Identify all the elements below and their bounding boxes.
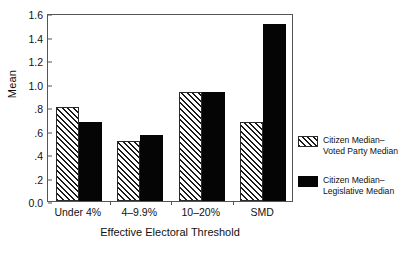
legend-item: Citizen Median– Voted Party Median [298,135,410,157]
bar [263,24,286,201]
y-tick-label: 1.4 [28,33,43,45]
x-tick-mark [110,201,111,205]
bar [179,92,202,201]
plot-area: 0.0.2.4.6.81.01.21.41.6 [47,14,293,202]
x-tick-mark [233,201,234,205]
bar [79,122,102,201]
x-axis-title: Effective Electoral Threshold [47,226,293,238]
x-tick-label: 10–20% [181,206,220,218]
x-tick-label: SMD [251,206,274,218]
y-tick-label: .6 [34,127,43,139]
y-tick-label: 1.0 [28,80,43,92]
y-tick-label: .8 [34,103,43,115]
bar [202,92,225,201]
bar [56,107,79,201]
bar-chart-figure: Mean 0.0.2.4.6.81.01.21.41.6 Under 4%4–9… [0,0,413,254]
chart-legend: Citizen Median– Voted Party MedianCitize… [298,135,410,215]
y-tick-mark [48,203,52,204]
x-tick-mark [171,201,172,205]
legend-swatch-hatched-icon [298,136,318,147]
bar [140,135,163,201]
x-axis-tick-labels: Under 4%4–9.9%10–20%SMD [47,206,293,222]
bar [117,141,140,201]
x-tick-label: Under 4% [54,206,101,218]
legend-item: Citizen Median– Legislative Median [298,175,410,197]
y-tick-label: 1.6 [28,9,43,21]
y-axis-title: Mean [6,44,18,124]
bars-layer [48,15,292,201]
legend-label: Citizen Median– Voted Party Median [323,135,398,157]
y-tick-label: .2 [34,174,43,186]
legend-swatch-solid-icon [298,176,318,187]
y-tick-label: .4 [34,150,43,162]
legend-label: Citizen Median– Legislative Median [323,175,394,197]
y-tick-label: 0.0 [28,197,43,209]
y-tick-label: 1.2 [28,56,43,68]
bar [240,122,263,201]
x-tick-label: 4–9.9% [121,206,157,218]
